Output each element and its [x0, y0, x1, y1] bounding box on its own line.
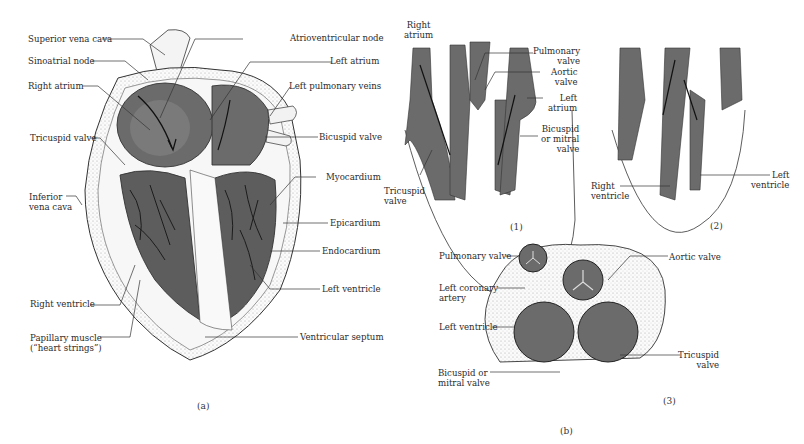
label-papillary-muscle-line2: (“heart strings”): [30, 343, 102, 353]
heart-illustrations: [0, 0, 804, 444]
heart-schematic-2: [612, 48, 745, 232]
label-atrioventricular-node: Atrioventricular node: [290, 33, 384, 43]
label-papillary-muscle: Papillary muscle (“heart strings”): [30, 333, 102, 353]
label-b3-tricuspid-valve: Tricuspid valve: [678, 350, 719, 370]
label-b2-left-ventricle-line2: ventricle: [751, 180, 789, 190]
label-b1-bicuspid-line3: valve: [541, 144, 579, 154]
label-inferior-vena-cava-line2: vena cava: [29, 202, 72, 212]
label-papillary-muscle-line1: Papillary muscle: [30, 333, 102, 343]
label-b1-right-atrium-line2: atrium: [404, 30, 433, 40]
label-b1-tricuspid-valve: Tricuspid valve: [384, 186, 425, 206]
label-b3-left-coronary-line1: Left coronary: [439, 283, 498, 293]
label-right-ventricle: Right ventricle: [30, 299, 95, 309]
label-left-atrium: Left atrium: [330, 56, 379, 66]
label-right-atrium: Right atrium: [28, 81, 84, 91]
label-b3-left-ventricle: Left ventricle: [439, 322, 498, 332]
label-myocardium: Myocardium: [326, 172, 381, 182]
caption-a: (a): [197, 401, 209, 411]
caption-b2: (2): [710, 221, 723, 231]
valve-plane-3: [485, 244, 665, 362]
label-b3-bicuspid-valve: Bicuspid or mitral valve: [438, 368, 490, 388]
label-inferior-vena-cava-line1: Inferior: [29, 192, 72, 202]
label-sinoatrial-node: Sinoatrial node: [28, 56, 95, 66]
label-b1-bicuspid-line2: or mitral: [541, 134, 579, 144]
label-b1-aortic-valve-line2: valve: [551, 77, 578, 87]
label-b2-left-ventricle-line1: Left: [751, 170, 789, 180]
label-b1-pulmonary-valve-line1: Pulmonary: [533, 46, 580, 56]
label-b1-right-atrium-line1: Right: [404, 20, 433, 30]
label-b1-pulmonary-valve-line2: valve: [533, 56, 580, 66]
label-b1-left-atrium-line2: atrium: [548, 103, 577, 113]
label-b1-aortic-valve-line1: Aortic: [551, 67, 578, 77]
label-b1-pulmonary-valve: Pulmonary valve: [533, 46, 580, 66]
label-endocardium: Endocardium: [322, 246, 380, 256]
label-tricuspid-valve: Tricuspid valve: [30, 133, 97, 143]
label-left-pulmonary-veins: Left pulmonary veins: [289, 81, 381, 91]
label-b3-pulmonary-valve: Pulmonary valve: [439, 251, 511, 261]
label-b3-left-coronary-line2: artery: [439, 293, 498, 303]
label-b2-left-ventricle: Left ventricle: [751, 170, 789, 190]
label-b2-right-ventricle-line1: Right: [591, 181, 629, 191]
label-b1-left-atrium: Left atrium: [548, 93, 577, 113]
label-b1-tricuspid-line1: Tricuspid: [384, 186, 425, 196]
label-epicardium: Epicardium: [330, 218, 381, 228]
caption-b3: (3): [663, 396, 676, 406]
label-left-ventricle: Left ventricle: [322, 284, 381, 294]
label-b1-aortic-valve: Aortic valve: [551, 67, 578, 87]
label-superior-vena-cava: Superior vena cava: [28, 34, 112, 44]
label-b3-aortic-valve: Aortic valve: [669, 252, 721, 262]
label-b3-tricuspid-line1: Tricuspid: [678, 350, 719, 360]
label-b1-bicuspid-valve: Bicuspid or mitral valve: [541, 124, 579, 154]
caption-b1: (1): [510, 222, 523, 232]
label-b3-bicuspid-line2: mitral valve: [438, 378, 490, 388]
label-bicuspid-valve: Bicuspid valve: [319, 132, 382, 142]
label-b1-bicuspid-line1: Bicuspid: [541, 124, 579, 134]
label-b3-left-coronary-artery: Left coronary artery: [439, 283, 498, 303]
label-b2-right-ventricle-line2: ventricle: [591, 191, 629, 201]
label-b3-tricuspid-line2: valve: [678, 360, 719, 370]
caption-b: (b): [560, 426, 573, 436]
label-b1-tricuspid-line2: valve: [384, 196, 425, 206]
label-inferior-vena-cava: Inferior vena cava: [29, 192, 72, 212]
label-b1-right-atrium: Right atrium: [404, 20, 433, 40]
label-b1-left-atrium-line1: Left: [548, 93, 577, 103]
label-ventricular-septum: Ventricular septum: [300, 332, 384, 342]
label-b3-bicuspid-line1: Bicuspid or: [438, 368, 490, 378]
label-b2-right-ventricle: Right ventricle: [591, 181, 629, 201]
heart-section-a: [85, 30, 301, 360]
